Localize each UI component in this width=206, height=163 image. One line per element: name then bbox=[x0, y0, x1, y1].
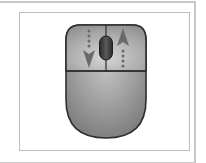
mouse-icon bbox=[0, 0, 206, 163]
scroll-wheel-icon bbox=[100, 36, 113, 60]
